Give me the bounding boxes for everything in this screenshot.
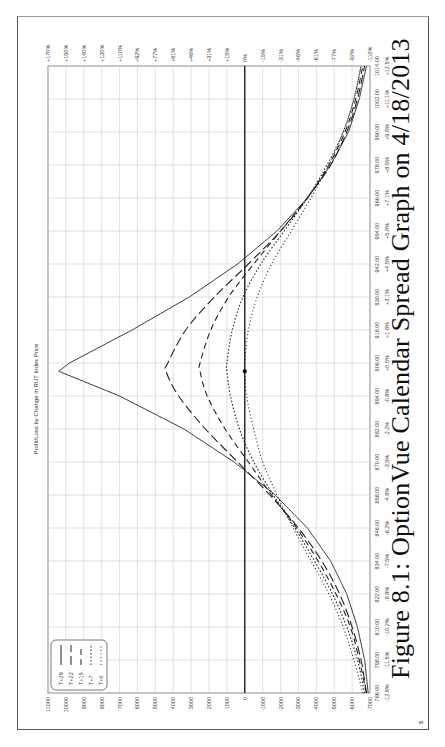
svg-text:942.00: 942.00 [374,256,380,273]
svg-text:894.00: 894.00 [374,388,380,405]
svg-text:810.00: 810.00 [374,619,380,636]
svg-text:822.00: 822.00 [374,586,380,603]
legend-item-label: T+29 [58,672,64,685]
legend: T+29T+22T+15T+7T+0 [51,640,107,690]
svg-text:-2000: -2000 [278,697,284,711]
svg-text:-110%: -110% [367,46,373,62]
y-unit-label: $ [418,720,424,724]
svg-text:8000: 8000 [99,697,105,709]
svg-text:+31%: +31% [206,48,212,62]
pl-curves [59,66,368,693]
svg-text:-46%: -46% [295,49,301,62]
svg-text:990.00: 990.00 [374,124,380,141]
svg-text:0: 0 [242,697,248,700]
svg-text:-7000: -7000 [367,697,373,711]
current-price-marker [243,369,247,373]
legend-item-label: T+22 [68,672,74,685]
svg-text:906.00: 906.00 [374,355,380,372]
svg-text:+77%: +77% [152,48,158,62]
svg-text:0%: 0% [242,54,248,62]
svg-text:+46%: +46% [188,48,194,62]
svg-text:786.00: 786.00 [374,685,380,702]
svg-text:846.00: 846.00 [374,520,380,537]
svg-text:-12.8%: -12.8% [384,684,390,702]
curve-tplus7 [226,66,364,693]
svg-text:1014.00: 1014.00 [374,56,380,76]
legend-item-label: T+15 [78,672,84,685]
svg-text:-15%: -15% [260,49,266,62]
svg-text:-77%: -77% [331,49,337,62]
curve-tplus0 [244,66,362,693]
svg-text:-61%: -61% [313,49,319,62]
y-axis-labels: 1100010000900080007000600050004000300020… [45,697,373,712]
svg-text:1000: 1000 [224,697,230,709]
svg-text:-1000: -1000 [260,697,266,711]
svg-text:918.00: 918.00 [374,322,380,339]
svg-text:870.00: 870.00 [374,454,380,471]
svg-text:-92%: -92% [349,49,355,62]
svg-text:+110%: +110% [117,45,123,62]
svg-text:2000: 2000 [206,697,212,709]
svg-text:+61%: +61% [170,48,176,62]
svg-text:798.00: 798.00 [374,652,380,669]
svg-text:954.00: 954.00 [374,223,380,240]
svg-text:-3000: -3000 [295,697,301,711]
svg-text:-31%: -31% [278,49,284,62]
svg-text:+92%: +92% [134,48,140,62]
svg-text:3000: 3000 [188,697,194,709]
svg-text:1002.00: 1002.00 [374,89,380,109]
rotated-figure-page: Profit/Loss by Change in RUT Index Price… [0,0,445,747]
svg-text:+170%: +170% [45,45,51,62]
svg-text:834.00: 834.00 [374,553,380,570]
svg-text:+150%: +150% [63,45,69,62]
svg-text:930.00: 930.00 [374,289,380,306]
pl-chart: Profit/Loss by Change in RUT Index Price… [18,17,428,729]
svg-text:11000: 11000 [45,697,51,712]
svg-text:-5000: -5000 [331,697,337,711]
y-axis-percent-labels: +170%+150%+140%+120%+110%+92%+77%+61%+46… [45,45,373,62]
curve-tplus29 [59,66,368,693]
curve-tplus22 [165,66,366,693]
svg-text:5000: 5000 [152,697,158,709]
svg-text:10000: 10000 [63,697,69,712]
svg-text:882.00: 882.00 [374,421,380,438]
svg-text:6000: 6000 [134,697,140,709]
chart-title: Profit/Loss by Change in RUT Index Price [33,343,39,455]
svg-text:-4000: -4000 [313,697,319,711]
legend-item-label: T+0 [98,675,104,685]
svg-text:966.00: 966.00 [374,190,380,207]
svg-text:4000: 4000 [170,697,176,709]
svg-text:-6000: -6000 [349,697,355,711]
svg-text:9000: 9000 [81,697,87,709]
figure-caption: Figure 8.1: OptionVue Calendar Spread Gr… [386,39,416,679]
grid-lines [48,66,370,693]
svg-text:858.00: 858.00 [374,487,380,504]
svg-text:978.00: 978.00 [374,157,380,174]
legend-item-label: T+7 [88,675,94,685]
svg-text:+120%: +120% [99,45,105,62]
svg-text:7000: 7000 [117,697,123,709]
svg-text:+15%: +15% [224,48,230,62]
svg-text:+140%: +140% [81,45,87,62]
chart-frame: Profit/Loss by Change in RUT Index Price… [17,16,429,730]
